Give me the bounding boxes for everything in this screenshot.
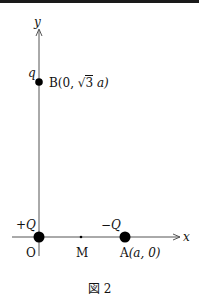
point-b-label: B(0, √3 a): [49, 77, 109, 89]
point-a-label: A(a, 0): [120, 247, 160, 259]
figure-canvas: y x q B(0, √3 a) +Q O M −Q A(a, 0) 図 2: [0, 0, 199, 301]
point-a-coords: (a, 0): [129, 246, 161, 260]
sqrt-arg: 3: [85, 75, 93, 90]
charge-a-label: −Q: [101, 219, 121, 231]
charge-dot-b: [35, 78, 43, 86]
point-b-name: B: [49, 76, 58, 90]
point-b-coords-suffix: a): [93, 76, 109, 90]
charge-dot-a: [120, 232, 131, 243]
charge-dot-origin: [34, 232, 45, 243]
y-axis-label: y: [34, 16, 41, 28]
point-a-name: A: [120, 246, 129, 260]
origin-label: O: [26, 247, 36, 259]
point-m-dot: [80, 236, 83, 239]
charge-b-label: q: [28, 67, 36, 79]
charge-origin-label: +Q: [16, 219, 36, 231]
figure-caption: 図 2: [88, 283, 111, 295]
x-axis-label: x: [183, 231, 190, 243]
point-m-label: M: [76, 247, 88, 259]
point-b-coords-prefix: (0,: [58, 76, 78, 90]
